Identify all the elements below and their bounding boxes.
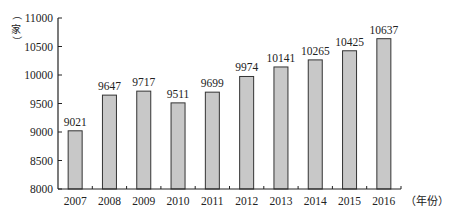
bar-value-label: 10425 xyxy=(335,36,364,48)
bar-2009: 9717 xyxy=(132,76,155,189)
bar-value-label: 9647 xyxy=(98,80,121,92)
y-tick-label: 8500 xyxy=(30,155,53,167)
bar-value-label: 9021 xyxy=(64,116,87,128)
y-tick-label: 9500 xyxy=(30,98,53,110)
bar-rect xyxy=(240,76,254,189)
y-tick-label: 10500 xyxy=(24,41,53,53)
x-tick-label: 2007 xyxy=(64,195,87,207)
bar-value-label: 9699 xyxy=(201,77,224,89)
bar-2011: 9699 xyxy=(201,77,224,189)
bar-value-label: 10141 xyxy=(267,52,296,64)
x-tick-label: 2009 xyxy=(132,195,155,207)
x-tick-label: 2016 xyxy=(372,195,395,207)
bar-rect xyxy=(308,60,322,189)
bar-chart: （家） 8000850090009500100001050011000 9021… xyxy=(0,0,450,219)
x-tick-label: 2014 xyxy=(304,195,327,207)
bar-rect xyxy=(137,91,151,189)
x-axis-unit-label: （年份） xyxy=(405,194,449,207)
x-axis-label: （年份） xyxy=(405,194,449,207)
x-tick-label: 2012 xyxy=(235,195,258,207)
y-tick-label: 10000 xyxy=(24,69,53,81)
bar-2007: 9021 xyxy=(64,116,87,189)
x-tick-label: 2013 xyxy=(269,195,292,207)
bar-rect xyxy=(171,103,185,189)
bar-value-label: 10637 xyxy=(369,24,398,36)
y-axis-ticks: 8000850090009500100001050011000 xyxy=(24,12,62,195)
bar-2010: 9511 xyxy=(167,88,190,189)
bar-2016: 10637 xyxy=(369,24,398,189)
bar-rect xyxy=(343,51,357,189)
y-tick-label: 9000 xyxy=(30,126,53,138)
bar-2013: 10141 xyxy=(267,52,296,189)
y-axis-label: （家） xyxy=(11,10,22,46)
bar-2014: 10265 xyxy=(301,45,330,189)
x-tick-label: 2008 xyxy=(98,195,121,207)
bar-value-label: 9974 xyxy=(235,61,258,73)
bar-rect xyxy=(377,39,391,189)
y-tick-label: 8000 xyxy=(30,183,53,195)
x-axis: 2007200820092010201120122013201420152016 xyxy=(58,186,401,207)
bar-2008: 9647 xyxy=(98,80,121,189)
y-label-paren-open: （ xyxy=(11,10,22,20)
x-tick-label: 2015 xyxy=(338,195,361,207)
y-tick-label: 11000 xyxy=(25,12,54,24)
y-label-text: 家 xyxy=(11,23,21,35)
bar-2015: 10425 xyxy=(335,36,364,189)
bar-value-label: 9717 xyxy=(132,76,155,88)
bar-2012: 9974 xyxy=(235,61,258,189)
bar-rect xyxy=(274,67,288,189)
bar-rect xyxy=(205,92,219,189)
x-tick-label: 2011 xyxy=(201,195,224,207)
y-label-paren-close: ） xyxy=(11,36,22,46)
bar-value-label: 9511 xyxy=(167,88,190,100)
x-tick-label: 2010 xyxy=(167,195,190,207)
bar-value-label: 10265 xyxy=(301,45,330,57)
bars: 9021964797179511969999741014110265104251… xyxy=(64,24,399,189)
bar-rect xyxy=(68,131,82,189)
bar-rect xyxy=(102,95,116,189)
